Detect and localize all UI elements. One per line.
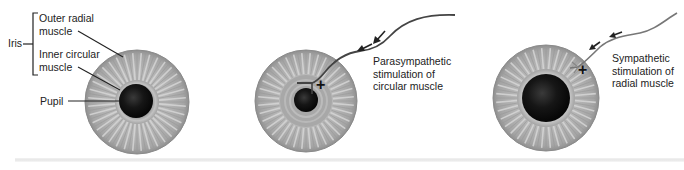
pupil [522, 74, 570, 122]
plus-sign-sympathetic: + [578, 64, 587, 77]
label-inner-circular-muscle: Inner circular muscle [39, 48, 100, 73]
caption-parasympathetic: Parasympathetic stimulation of circular … [373, 55, 451, 93]
iris-bracket [23, 13, 38, 75]
pupil [294, 88, 318, 112]
pupil-muscles-diagram: Iris Outer radial muscle Inner circular … [0, 0, 684, 170]
label-pupil: Pupil [40, 95, 63, 108]
caption-sympathetic: Sympathetic stimulation of radial muscle [612, 52, 674, 90]
eye-resting [85, 50, 189, 154]
eye-constricted [255, 50, 357, 152]
plus-sign-parasympathetic: + [316, 79, 325, 92]
pupil [119, 84, 153, 118]
label-outer-radial-muscle: Outer radial muscle [39, 12, 94, 37]
ground-shadow [15, 158, 684, 162]
label-iris: Iris [8, 37, 22, 50]
diagram-canvas [0, 0, 684, 170]
